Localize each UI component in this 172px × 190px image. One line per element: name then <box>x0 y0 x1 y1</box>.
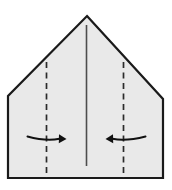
origami-illustration <box>0 0 172 190</box>
origami-diagram: Origami fold step diagram Pentagonal hou… <box>0 0 172 190</box>
